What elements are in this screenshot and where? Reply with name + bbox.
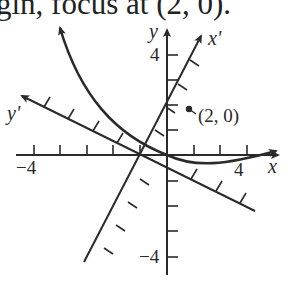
x-tick-pos4-label: 4 [234,159,244,180]
x-axis-label: x [267,155,277,177]
y-prime-axis-label: y' [5,102,21,125]
x-prime-axis-ticks [104,60,199,254]
x-prime-axis [84,36,201,262]
y-tick-pos4-label: 4 [150,44,160,65]
x-prime-axis-label: x' [207,27,222,49]
y-tick-neg4-label: −4 [139,246,160,267]
y-axis-label: y [147,20,158,43]
rotated-parabola-diagram: (2, 0) x y x' y' −4 4 4 −4 [0,0,288,282]
y-axis [167,30,178,275]
x-tick-neg4-label: −4 [16,157,37,178]
focus-label: (2, 0) [198,105,239,127]
